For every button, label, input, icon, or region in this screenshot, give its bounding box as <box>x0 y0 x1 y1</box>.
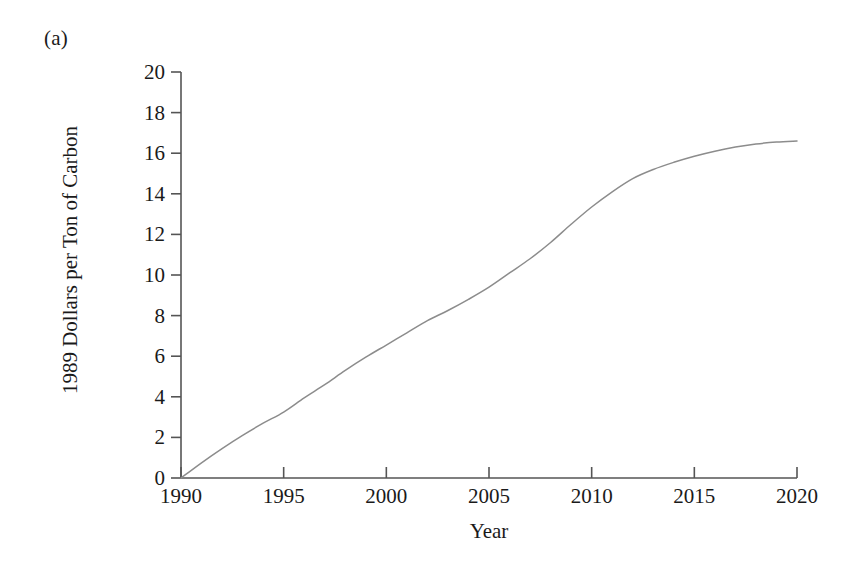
axes <box>171 72 797 478</box>
y-axis-ticks <box>171 72 181 478</box>
y-tick-label: 8 <box>109 306 165 327</box>
x-tick-label: 2010 <box>547 486 637 507</box>
x-tick-label: 2000 <box>341 486 431 507</box>
figure-panel-a: (a) 1989 Dollars per Ton of Carbon Year … <box>0 0 856 584</box>
line-series-carbon-tax-path <box>181 141 797 478</box>
y-tick-label: 2 <box>109 427 165 448</box>
plot-area: 02468101214161820 1990199520002005201020… <box>0 0 856 584</box>
x-tick-label: 1990 <box>136 486 226 507</box>
y-tick-label: 12 <box>109 224 165 245</box>
y-tick-label: 10 <box>109 265 165 286</box>
y-tick-label: 18 <box>109 103 165 124</box>
x-tick-label: 2020 <box>752 486 842 507</box>
x-axis-ticks <box>181 467 797 478</box>
y-tick-label: 14 <box>109 184 165 205</box>
y-tick-label: 6 <box>109 346 165 367</box>
x-tick-label: 1995 <box>239 486 329 507</box>
x-tick-label: 2005 <box>444 486 534 507</box>
data-series <box>181 141 797 478</box>
x-tick-label: 2015 <box>649 486 739 507</box>
y-tick-label: 20 <box>109 62 165 83</box>
y-tick-label: 16 <box>109 143 165 164</box>
y-tick-label: 4 <box>109 387 165 408</box>
